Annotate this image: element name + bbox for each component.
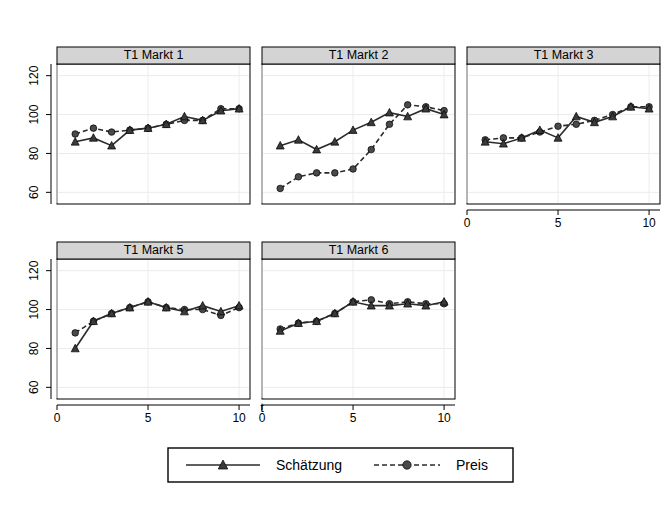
- panel-plot-area: [262, 259, 455, 399]
- x-axis-tick-label: 0: [54, 411, 61, 425]
- chart-figure: T1 Markt 16080100120T1 Markt 2T1 Markt 3…: [0, 0, 672, 506]
- data-point-preis: [313, 170, 320, 177]
- panel-title: T1 Markt 1: [124, 48, 184, 62]
- x-axis-tick-label: 10: [437, 411, 451, 425]
- x-axis-tick-label: 5: [350, 411, 357, 425]
- panel-title: T1 Markt 2: [329, 48, 389, 62]
- data-point-preis: [90, 125, 97, 132]
- x-axis-title: t: [260, 400, 264, 415]
- panel-plot-area: [57, 64, 250, 204]
- panel-title: T1 Markt 5: [124, 243, 184, 257]
- data-point-preis: [350, 166, 357, 173]
- panel-title: T1 Markt 3: [534, 48, 594, 62]
- legend-marker-circle-icon: [403, 461, 411, 469]
- y-axis-tick-label: 60: [27, 380, 41, 394]
- data-point-preis: [573, 121, 580, 128]
- data-point-preis: [404, 102, 411, 109]
- x-axis-tick-label: 10: [232, 411, 246, 425]
- panel-title: T1 Markt 6: [329, 243, 389, 257]
- data-point-preis: [555, 123, 562, 130]
- panel-plot-area: [467, 64, 660, 204]
- chart-panel: T1 Markt 30510: [464, 47, 660, 230]
- y-axis-tick-label: 100: [27, 299, 41, 319]
- data-point-preis: [332, 170, 339, 177]
- chart-panel: T1 Markt 60510: [259, 242, 455, 425]
- data-point-preis: [72, 131, 79, 138]
- chart-panel: T1 Markt 16080100120: [27, 47, 250, 204]
- chart-panel: T1 Markt 560801001200510: [27, 242, 250, 425]
- x-axis-tick-label: 10: [642, 216, 656, 230]
- legend-label-preis: Preis: [456, 457, 488, 473]
- x-axis-tick-label: 0: [464, 216, 471, 230]
- legend-label-schaetzung: Schätzung: [276, 457, 342, 473]
- data-point-preis: [277, 185, 284, 192]
- y-axis-tick-label: 80: [27, 146, 41, 160]
- y-axis-tick-label: 80: [27, 341, 41, 355]
- panel-plot-area: [262, 64, 455, 204]
- panel-plot-area: [57, 259, 250, 399]
- x-axis-tick-label: 5: [555, 216, 562, 230]
- trellis-chart-svg: T1 Markt 16080100120T1 Markt 2T1 Markt 3…: [0, 0, 672, 506]
- chart-legend: SchätzungPreis: [168, 448, 513, 482]
- x-axis-tick-label: 5: [145, 411, 152, 425]
- y-axis-tick-label: 120: [27, 65, 41, 85]
- y-axis-tick-label: 120: [27, 260, 41, 280]
- data-point-preis: [386, 121, 393, 128]
- y-axis-tick-label: 100: [27, 104, 41, 124]
- data-point-preis: [295, 173, 302, 180]
- data-point-preis: [368, 146, 375, 153]
- data-point-preis: [72, 330, 79, 337]
- data-point-preis: [108, 129, 115, 136]
- chart-panel: T1 Markt 2: [262, 47, 455, 204]
- y-axis-tick-label: 60: [27, 185, 41, 199]
